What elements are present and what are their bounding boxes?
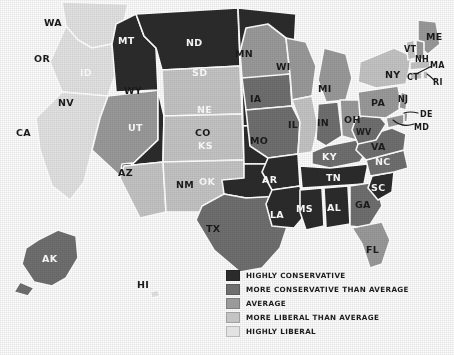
label-RI: RI (433, 78, 443, 87)
label-NE: NE (197, 104, 212, 115)
label-TX: TX (206, 223, 221, 234)
label-AZ: AZ (118, 167, 133, 178)
state-HI[interactable] (150, 290, 160, 298)
label-WI: WI (276, 61, 291, 72)
label-SC: SC (371, 182, 385, 193)
state-RI[interactable] (423, 71, 428, 79)
label-MD: MD (414, 123, 429, 132)
ideology-legend: HIGHLY CONSERVATIVE MORE CONSERVATIVE TH… (226, 268, 409, 339)
label-OH: OH (344, 114, 361, 125)
label-HI: HI (137, 279, 149, 290)
state-NY[interactable] (358, 48, 412, 88)
label-UT: UT (128, 122, 143, 133)
label-ND: ND (186, 37, 202, 48)
legend-item[interactable]: AVERAGE (226, 296, 409, 310)
legend-swatch-more-conservative (226, 284, 240, 295)
label-NY: NY (385, 69, 400, 80)
label-OR: OR (34, 53, 50, 64)
legend-item[interactable]: HIGHLY LIBERAL (226, 325, 409, 339)
legend-label: MORE LIBERAL THAN AVERAGE (246, 313, 379, 322)
label-ME: ME (426, 31, 443, 42)
legend-label: HIGHLY LIBERAL (246, 327, 316, 336)
label-NH: NH (415, 55, 429, 64)
label-NM: NM (176, 179, 194, 190)
label-LA: LA (270, 209, 284, 220)
legend-item[interactable]: HIGHLY CONSERVATIVE (226, 268, 409, 282)
label-MA: MA (430, 61, 445, 70)
state-IA[interactable] (242, 74, 292, 110)
label-IN: IN (317, 117, 329, 128)
legend-swatch-highly-liberal (226, 326, 240, 337)
label-DE: DE (420, 110, 433, 119)
label-PA: PA (371, 97, 385, 108)
label-NV: NV (58, 97, 74, 108)
label-SD: SD (192, 67, 207, 78)
label-MI: MI (318, 83, 332, 94)
label-NJ: NJ (398, 95, 408, 104)
us-ideology-map: WA OR CA NV ID MT WY UT CO AZ NM ND SD N… (0, 0, 454, 355)
legend-label: AVERAGE (246, 299, 286, 308)
label-IL: IL (288, 119, 298, 130)
label-AR: AR (262, 174, 278, 185)
legend-label: HIGHLY CONSERVATIVE (246, 271, 346, 280)
legend-item[interactable]: MORE LIBERAL THAN AVERAGE (226, 311, 409, 325)
label-VA: VA (371, 141, 386, 152)
label-GA: GA (355, 199, 371, 210)
label-AK: AK (42, 253, 58, 264)
label-FL: FL (366, 244, 379, 255)
label-MN: MN (235, 48, 253, 59)
label-MS: MS (296, 203, 313, 214)
label-ID: ID (80, 67, 92, 78)
label-CO: CO (195, 127, 211, 138)
legend-label: MORE CONSERVATIVE THAN AVERAGE (246, 285, 409, 294)
label-CT: CT (407, 73, 419, 82)
label-KS: KS (198, 140, 213, 151)
legend-swatch-more-liberal (226, 312, 240, 323)
legend-swatch-average (226, 298, 240, 309)
leader-line-de (404, 112, 418, 113)
label-TN: TN (326, 172, 341, 183)
label-WV: WV (356, 128, 372, 137)
label-NC: NC (375, 156, 391, 167)
label-MT: MT (118, 35, 135, 46)
label-VT: VT (404, 45, 416, 54)
label-WY: WY (124, 85, 142, 96)
label-CA: CA (16, 127, 31, 138)
label-AL: AL (327, 202, 341, 213)
label-OK: OK (199, 176, 215, 187)
label-KY: KY (322, 151, 337, 162)
legend-swatch-highly-conservative (226, 270, 240, 281)
state-CO[interactable] (163, 114, 244, 162)
label-WA: WA (44, 17, 62, 28)
label-IA: IA (250, 93, 262, 104)
label-MO: MO (250, 135, 268, 146)
legend-item[interactable]: MORE CONSERVATIVE THAN AVERAGE (226, 282, 409, 296)
